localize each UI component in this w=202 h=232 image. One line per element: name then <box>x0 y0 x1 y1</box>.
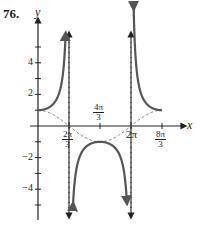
x-tick-label: 4π3 <box>93 103 104 122</box>
y-axis-label: y <box>35 5 40 20</box>
y-tick-label: 4 <box>0 56 33 67</box>
secant-branch <box>134 7 162 111</box>
y-tick-label: 2 <box>0 87 33 98</box>
x-axis-label: x <box>187 118 192 133</box>
x-tick-label: 2π3 <box>62 130 73 149</box>
secant-branch <box>73 142 127 206</box>
y-tick-label: −4 <box>0 182 33 193</box>
x-tick-label: 8π3 <box>155 130 166 149</box>
y-tick-label: −2 <box>0 151 33 162</box>
axes <box>30 20 184 220</box>
x-tick-label: 2π <box>126 128 137 140</box>
secant-branch <box>38 36 66 111</box>
